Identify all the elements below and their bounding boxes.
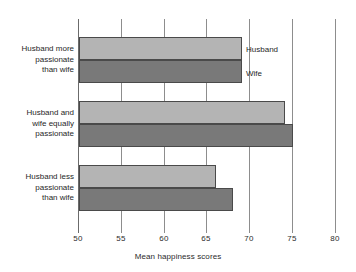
xtick-label-0: 50 bbox=[73, 234, 82, 243]
plot-area: Husband more passionate than wife Husban… bbox=[0, 0, 356, 272]
category-label-2: Husband less passionate than wife bbox=[0, 172, 74, 204]
gridline-80 bbox=[335, 19, 336, 233]
x-axis-title: Mean happiness scores bbox=[0, 252, 356, 261]
bar-husband-group-2 bbox=[79, 165, 216, 188]
xtick-label-1: 55 bbox=[116, 234, 125, 243]
xtick-label-4: 70 bbox=[244, 234, 253, 243]
xtick-label-6: 80 bbox=[330, 234, 339, 243]
xtick-label-2: 60 bbox=[159, 234, 168, 243]
chart-page: Husband more passionate than wife Husban… bbox=[0, 0, 356, 272]
legend-label-husband: Husband bbox=[246, 45, 278, 54]
category-label-0: Husband more passionate than wife bbox=[0, 44, 74, 76]
bar-wife-group-0 bbox=[79, 60, 242, 83]
bar-wife-group-1 bbox=[79, 124, 293, 147]
bar-husband-group-1 bbox=[79, 101, 285, 124]
bar-husband-group-0 bbox=[79, 37, 242, 60]
xtick-label-5: 75 bbox=[287, 234, 296, 243]
xtick-label-3: 65 bbox=[201, 234, 210, 243]
category-label-1: Husband and wife equally passionate bbox=[0, 108, 74, 140]
bar-wife-group-2 bbox=[79, 188, 233, 211]
legend-label-wife: Wife bbox=[246, 69, 262, 78]
